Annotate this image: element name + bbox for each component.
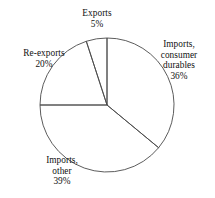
slice-label-re-exports-value: 20%: [2, 59, 86, 70]
slice-label-imports-consumer-durables: Imports, consumer durables 36%: [146, 39, 212, 81]
slice-label-consumer-durables-value: 36%: [146, 71, 212, 82]
pie-chart-figure: Exports 5% Imports, consumer durables 36…: [0, 0, 215, 198]
slice-label-imports-other-value: 39%: [26, 176, 98, 187]
slice-label-consumer-durables-line1: Imports,: [146, 39, 212, 50]
pie-slice-exports: [86, 38, 107, 105]
slice-label-exports-value: 5%: [60, 19, 134, 30]
slice-label-imports-other-line2: other: [26, 166, 98, 177]
slice-label-exports-name: Exports: [60, 8, 134, 19]
slice-label-re-exports-name: Re-exports: [2, 48, 86, 59]
slice-label-exports: Exports 5%: [60, 8, 134, 29]
slice-label-imports-other-line1: Imports,: [26, 155, 98, 166]
slice-label-imports-other: Imports, other 39%: [26, 155, 98, 187]
slice-label-re-exports: Re-exports 20%: [2, 48, 86, 69]
slice-label-consumer-durables-line3: durables: [146, 60, 212, 71]
slice-label-consumer-durables-line2: consumer: [146, 50, 212, 61]
